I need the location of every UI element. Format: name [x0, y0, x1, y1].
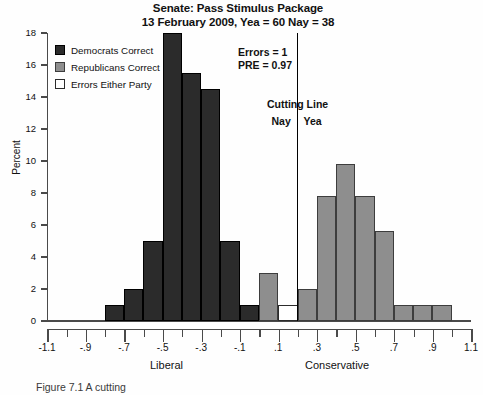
x-axis-minor-tick [414, 330, 415, 337]
x-axis-minor-tick [182, 330, 183, 337]
histogram-bar [201, 89, 220, 321]
histogram-bar [317, 196, 336, 321]
x-axis-major-tick [47, 330, 48, 342]
y-axis-tick-labels: 024681012141618 [14, 0, 36, 360]
x-axis-tick-label: -.3 [181, 342, 221, 353]
x-axis-tick-label: 1.1 [451, 342, 483, 353]
x-axis-tick-label: -.1 [220, 342, 260, 353]
x-axis-major-tick [317, 330, 318, 342]
pre-text: PRE = 0.97 [238, 59, 292, 72]
x-axis-minor-tick [144, 330, 145, 337]
liberal-axis-label: Liberal [150, 359, 183, 371]
histogram-bar [375, 231, 394, 321]
histogram-bar [240, 305, 259, 321]
x-axis-tick-label: .3 [297, 342, 337, 353]
x-axis-minor-tick [452, 330, 453, 337]
x-axis-tick-label: -.7 [104, 342, 144, 353]
y-axis-tick [41, 160, 47, 161]
legend: Democrats CorrectRepublicans CorrectErro… [55, 44, 160, 95]
y-axis-tick [41, 320, 47, 321]
cutting-line-nay-label: Nay [272, 115, 291, 127]
y-axis-tick-label: 12 [16, 124, 36, 133]
x-axis-minor-tick [259, 330, 260, 337]
x-axis-minor-tick [375, 330, 376, 337]
legend-item: Errors Either Party [55, 78, 160, 90]
histogram-bar [432, 305, 451, 321]
x-axis-major-tick [433, 330, 434, 342]
x-axis-minor-tick [221, 330, 222, 337]
x-axis-major-tick [394, 330, 395, 342]
x-axis-major-tick [471, 330, 472, 342]
histogram-bar [182, 73, 201, 321]
x-axis-tick-label: .1 [258, 342, 298, 353]
y-axis-tick [41, 128, 47, 129]
x-axis-minor-tick [298, 330, 299, 337]
x-axis-ruler [47, 329, 473, 342]
legend-swatch-rep [55, 62, 65, 72]
x-axis-tick-label: -.9 [66, 342, 106, 353]
histogram-bar [105, 305, 124, 321]
x-axis-major-tick [163, 330, 164, 342]
histogram-bar [278, 305, 297, 321]
y-axis-tick [41, 256, 47, 257]
x-axis-tick-label: .7 [374, 342, 414, 353]
y-axis-tick-label: 0 [16, 316, 36, 325]
histogram-bar [298, 289, 317, 321]
x-axis-major-tick [240, 330, 241, 342]
chart-subtitle-line2: 13 February 2009, Yea = 60 Nay = 38 [0, 16, 476, 28]
y-axis-tick [41, 32, 47, 33]
histogram-bar [124, 289, 143, 321]
errors-text: Errors = 1 [238, 46, 292, 59]
histogram-bar [336, 164, 355, 321]
histogram-bar [413, 305, 432, 321]
legend-item: Republicans Correct [55, 61, 160, 73]
x-axis-major-tick [86, 330, 87, 342]
y-axis-tick-label: 2 [16, 284, 36, 293]
cutting-line-yea-label: Yea [304, 115, 322, 127]
legend-swatch-dem [55, 45, 65, 55]
histogram-bar [143, 241, 162, 321]
y-axis-tick [41, 96, 47, 97]
legend-label: Republicans Correct [71, 62, 160, 73]
y-axis-tick-label: 4 [16, 252, 36, 261]
cutting-line [297, 33, 299, 321]
x-axis-minor-tick [67, 330, 68, 337]
x-axis-tick-label: .9 [412, 342, 452, 353]
x-axis-tick-label: .5 [335, 342, 375, 353]
y-axis-tick [41, 224, 47, 225]
x-axis-major-tick [356, 330, 357, 342]
y-axis-tick [41, 192, 47, 193]
legend-swatch-err [55, 79, 65, 89]
conservative-axis-label: Conservative [305, 359, 369, 371]
x-axis-minor-tick [336, 330, 337, 337]
chart-title-line1: Senate: Pass Stimulus Package [0, 2, 476, 14]
x-axis-major-tick [124, 330, 125, 342]
x-axis-tick-label: -.5 [143, 342, 183, 353]
statistics-annotation: Errors = 1 PRE = 0.97 [238, 46, 292, 72]
y-axis-tick-label: 16 [16, 60, 36, 69]
y-axis-tick-label: 8 [16, 188, 36, 197]
histogram-bar [220, 241, 239, 321]
y-axis-tick-label: 18 [16, 28, 36, 37]
x-axis-tick-label: -1.1 [27, 342, 67, 353]
figure-caption: Figure 7.1 A cutting [36, 381, 296, 394]
legend-label: Errors Either Party [71, 79, 152, 90]
legend-label: Democrats Correct [71, 45, 153, 56]
y-axis-tick-label: 14 [16, 92, 36, 101]
histogram-bar [394, 305, 413, 321]
legend-item: Democrats Correct [55, 44, 160, 56]
y-axis-tick [41, 288, 47, 289]
x-axis-major-tick [279, 330, 280, 342]
y-axis-tick-label: 10 [16, 156, 36, 165]
histogram-bar [259, 273, 278, 321]
histogram-bar [355, 196, 374, 321]
y-axis-tick [41, 64, 47, 65]
y-axis-tick-label: 6 [16, 220, 36, 229]
x-axis-major-tick [202, 330, 203, 342]
x-axis-minor-tick [105, 330, 106, 337]
histogram-bar [163, 33, 182, 321]
